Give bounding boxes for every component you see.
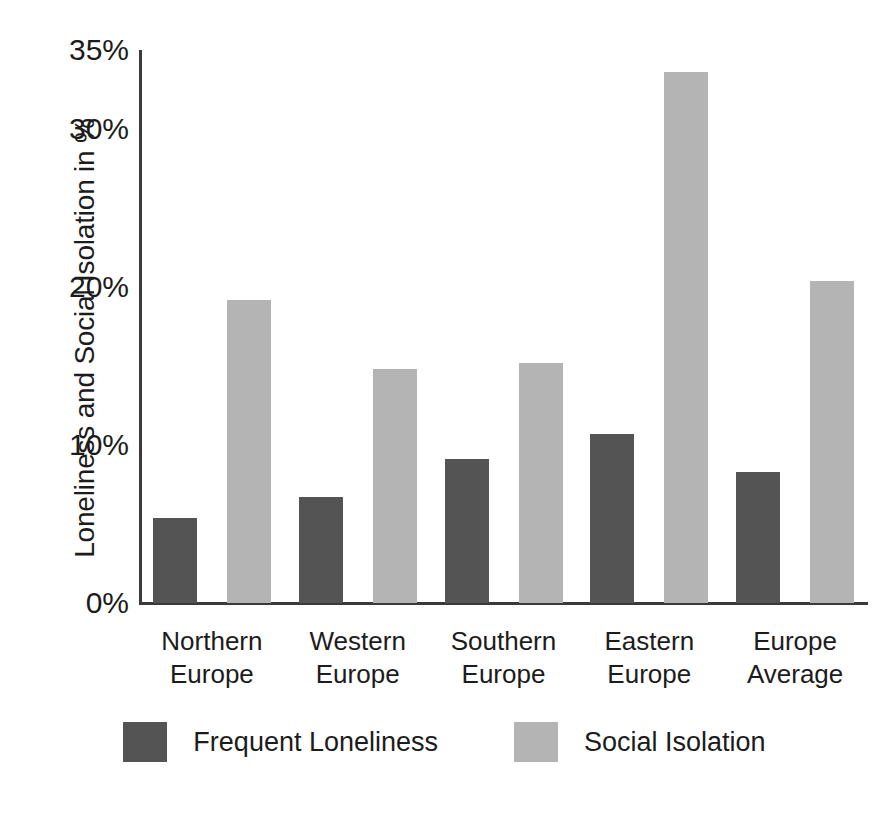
x-axis-label-line-1: Europe <box>722 625 868 658</box>
legend-swatch-icon <box>514 722 558 762</box>
bar <box>810 281 854 603</box>
legend-item[interactable]: Social Isolation <box>514 722 766 762</box>
x-axis-category-label: EasternEurope <box>576 625 722 691</box>
bar <box>736 472 780 603</box>
legend-swatch-icon <box>123 722 167 762</box>
x-axis-label-line-2: Europe <box>431 658 577 691</box>
bars-layer <box>139 50 868 603</box>
y-axis-tick-label: 20% <box>11 272 129 302</box>
y-axis-tick-label: 30% <box>11 114 129 144</box>
legend-label: Frequent Loneliness <box>193 729 438 756</box>
bar <box>153 518 197 603</box>
x-axis-category-label: SouthernEurope <box>431 625 577 691</box>
bar <box>299 497 343 603</box>
chart-legend: Frequent LonelinessSocial Isolation <box>0 722 889 762</box>
bar-chart: Loneliness and Social Isolation in % 0%1… <box>0 0 889 825</box>
x-axis-label-line-2: Europe <box>285 658 431 691</box>
bar <box>590 434 634 603</box>
x-axis-label-line-2: Europe <box>576 658 722 691</box>
x-axis-category-label: EuropeAverage <box>722 625 868 691</box>
legend-label: Social Isolation <box>584 729 766 756</box>
x-axis-category-label: WesternEurope <box>285 625 431 691</box>
y-axis-tick-label: 0% <box>11 588 129 618</box>
x-axis-label-line-2: Europe <box>139 658 285 691</box>
bar <box>445 459 489 603</box>
legend-item[interactable]: Frequent Loneliness <box>123 722 438 762</box>
x-axis-label-line-1: Western <box>285 625 431 658</box>
x-axis-labels: NorthernEuropeWesternEuropeSouthernEurop… <box>139 625 868 695</box>
x-axis-label-line-1: Northern <box>139 625 285 658</box>
x-axis-label-line-1: Eastern <box>576 625 722 658</box>
y-axis-tick-label: 10% <box>11 430 129 460</box>
bar <box>519 363 563 603</box>
plot-area: 0%10%20%30%35% <box>139 50 868 603</box>
y-axis-tick-label: 35% <box>11 35 129 65</box>
x-axis-category-label: NorthernEurope <box>139 625 285 691</box>
x-axis-label-line-2: Average <box>722 658 868 691</box>
bar <box>227 300 271 603</box>
x-axis-label-line-1: Southern <box>431 625 577 658</box>
bar <box>373 369 417 603</box>
bar <box>664 72 708 603</box>
